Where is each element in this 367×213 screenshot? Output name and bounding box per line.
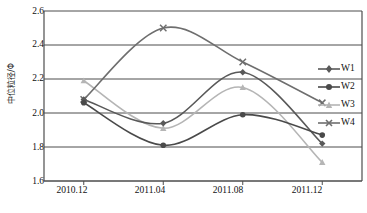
data-point-w2-3 <box>319 132 325 138</box>
x-axis-tick-marks <box>84 181 323 185</box>
x-axis-tick-label: 2011.04 <box>120 186 180 196</box>
x-axis-tick-label: 2010.12 <box>42 186 102 196</box>
legend-label: W1 <box>340 64 355 74</box>
legend: W1 W2 W3 <box>318 60 366 132</box>
legend-label: W2 <box>340 82 355 92</box>
data-point-w2-1 <box>160 143 166 149</box>
legend-item-w2[interactable]: W2 <box>318 78 366 96</box>
legend-marker-triangle-icon <box>318 98 340 112</box>
data-point-w2-2 <box>240 112 246 118</box>
legend-label: W3 <box>340 100 355 110</box>
chart-container: 2.6 2.4 2.2 2.0 1.8 1.6 中位粒径/Φ 2010.12 2… <box>0 0 367 213</box>
x-axis-tick-label: 2011.12 <box>277 186 337 196</box>
series-line-w3 <box>84 81 323 163</box>
data-point-w3-0 <box>81 78 87 84</box>
data-point-w1-2 <box>240 69 246 75</box>
data-point-w1-1 <box>160 120 166 126</box>
legend-item-w1[interactable]: W1 <box>318 60 366 78</box>
legend-item-w3[interactable]: W3 <box>318 96 366 114</box>
gridlines <box>44 11 362 181</box>
legend-label: W4 <box>340 118 355 128</box>
legend-item-w4[interactable]: W4 <box>318 114 366 132</box>
legend-marker-cross-icon <box>318 116 340 130</box>
series-line-w2 <box>84 103 323 146</box>
series-lines <box>84 27 323 162</box>
x-axis-tick-label: 2011.08 <box>198 186 258 196</box>
data-point-w4-2 <box>240 59 246 65</box>
axis-lines <box>44 11 362 181</box>
legend-marker-circle-icon <box>318 80 340 94</box>
series-line-w4 <box>84 27 323 103</box>
plot-area <box>0 0 367 213</box>
data-point-w2-0 <box>81 100 87 106</box>
legend-marker-diamond-icon <box>318 62 340 76</box>
